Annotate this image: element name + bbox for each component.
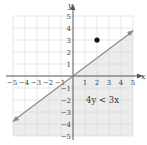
svg-text:−5: −5 xyxy=(61,133,71,141)
svg-text:1: 1 xyxy=(83,79,87,87)
svg-text:4: 4 xyxy=(67,25,72,33)
svg-text:1: 1 xyxy=(67,61,71,69)
svg-text:3: 3 xyxy=(67,37,71,45)
x-axis-label: x xyxy=(141,72,146,81)
svg-text:−2: −2 xyxy=(61,97,71,105)
svg-text:−3: −3 xyxy=(61,109,71,117)
svg-text:5: 5 xyxy=(131,79,135,87)
coordinate-graph: x y −5 −4 −3 −2 −1 1 2 3 4 5 5 4 3 2 1 −… xyxy=(0,0,147,145)
svg-text:−1: −1 xyxy=(61,85,71,93)
y-tick-labels: 5 4 3 2 1 −1 −2 −3 −4 −5 xyxy=(61,13,72,141)
test-point xyxy=(94,37,99,42)
inequality-label: 4y < 3x xyxy=(86,95,119,105)
svg-text:5: 5 xyxy=(67,13,71,21)
svg-text:−2: −2 xyxy=(43,79,53,87)
svg-text:−4: −4 xyxy=(61,121,72,129)
svg-text:3: 3 xyxy=(107,79,111,87)
svg-text:2: 2 xyxy=(95,79,99,87)
svg-text:−4: −4 xyxy=(19,79,30,87)
svg-text:−5: −5 xyxy=(7,79,17,87)
y-axis-label: y xyxy=(67,1,73,10)
svg-text:2: 2 xyxy=(67,49,71,57)
svg-text:4: 4 xyxy=(119,79,124,87)
svg-text:−3: −3 xyxy=(31,79,41,87)
